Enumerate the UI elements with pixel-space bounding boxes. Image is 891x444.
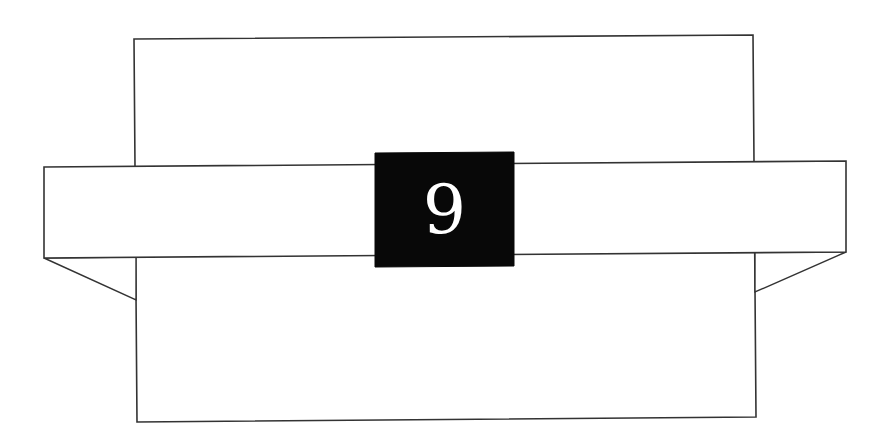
chapter-number: 9 (375, 153, 515, 267)
right-fold (755, 252, 846, 292)
left-fold (44, 257, 136, 300)
